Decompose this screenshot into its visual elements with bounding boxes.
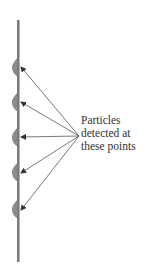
annotation-line-2: detected at [81, 127, 136, 140]
annotation-line-1: Particles [81, 114, 136, 127]
annotation-label: Particles detected at these points [81, 114, 136, 153]
arrows [21, 67, 79, 210]
arrow-5 [21, 136, 79, 210]
arrow-2 [21, 102, 79, 136]
detection-screen [17, 20, 20, 262]
arrow-1 [21, 67, 79, 136]
arrow-3 [21, 136, 79, 137]
arrow-4 [21, 136, 79, 173]
annotation-line-3: these points [81, 140, 136, 153]
